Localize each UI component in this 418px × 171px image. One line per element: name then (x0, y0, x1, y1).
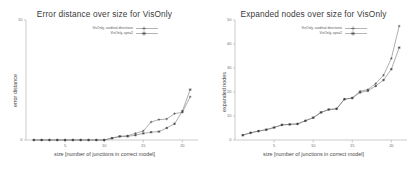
y-axis-label: error distance (12, 74, 18, 107)
svg-text:10: 10 (227, 113, 232, 118)
legend-key-icon (136, 26, 158, 31)
x-axis-label: size [number of junctions in correct mod… (209, 151, 418, 157)
axes-left: 0105101520 (18, 17, 198, 147)
legend-item: VisOnly, apsa2 (227, 31, 367, 36)
svg-text:0: 0 (20, 137, 23, 142)
chart-title: Error distance over size for VisOnly (0, 9, 209, 19)
svg-text:20: 20 (227, 89, 232, 94)
legend-key-icon (345, 26, 367, 31)
chart-legend: VisOnly, cardinal directions VisOnly, ap… (18, 26, 158, 37)
legend-label: VisOnly, apsa2 (111, 31, 137, 36)
chart-panel-error-distance: 0105101520 Error distance over size for … (0, 0, 209, 171)
svg-text:10: 10 (102, 143, 107, 148)
svg-text:10: 10 (311, 143, 316, 148)
legend-item: VisOnly, apsa2 (18, 31, 158, 36)
chart-legend: VisOnly, cardinal directions VisOnly, ap… (227, 26, 367, 37)
svg-text:5: 5 (64, 143, 67, 148)
svg-text:15: 15 (350, 143, 355, 148)
svg-text:40: 40 (227, 41, 232, 46)
x-axis-label: size [number of junctions in correct mod… (0, 151, 209, 157)
svg-text:20: 20 (180, 143, 185, 148)
legend-label: VisOnly, apsa2 (320, 31, 346, 36)
svg-text:15: 15 (141, 143, 146, 148)
series-group-left (33, 88, 192, 141)
svg-text:0: 0 (229, 137, 232, 142)
legend-key-icon (136, 31, 158, 36)
figure-root: 0105101520 Error distance over size for … (0, 0, 418, 171)
chart-panel-expanded-nodes: 010203040505101520 Expanded nodes over s… (209, 0, 418, 171)
series-group-right (242, 25, 401, 137)
y-axis-label: expanded nodes (221, 72, 227, 112)
svg-text:20: 20 (389, 143, 394, 148)
chart-title: Expanded nodes over size for VisOnly (209, 9, 418, 19)
legend-key-icon (345, 31, 367, 36)
svg-text:5: 5 (273, 143, 276, 148)
svg-text:30: 30 (227, 65, 232, 70)
